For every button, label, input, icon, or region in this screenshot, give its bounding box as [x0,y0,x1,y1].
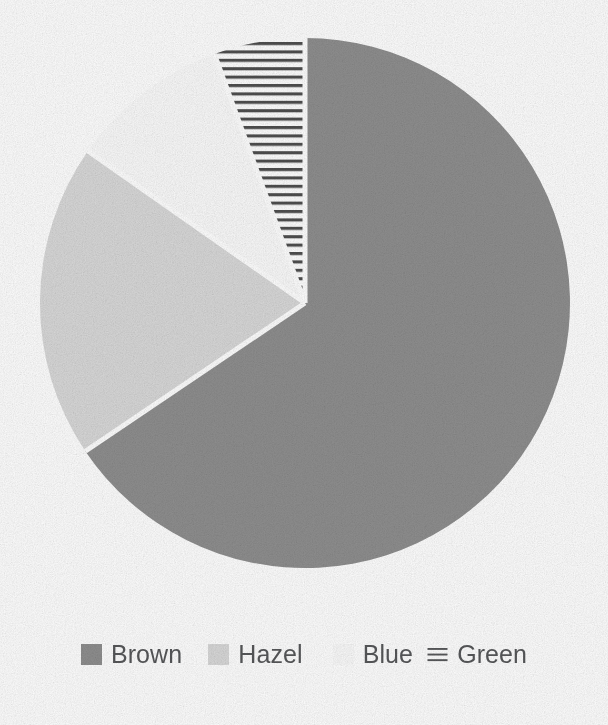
legend-swatch-green [427,644,448,665]
edge-softening [40,38,570,568]
pie-plot-area [0,0,608,600]
chart-legend: Brown Hazel Blue Green [0,628,608,680]
legend-label-brown: Brown [111,642,182,667]
pie-chart-figure: Brown Hazel Blue Green [0,0,608,725]
pie-svg [0,0,608,600]
legend-swatch-hazel [208,644,229,665]
legend-label-blue: Blue [363,642,413,667]
legend-item-brown[interactable]: Brown [81,642,182,667]
legend-swatch-blue [333,644,354,665]
legend-label-green: Green [457,642,527,667]
legend-item-blue[interactable]: Blue [333,642,413,667]
legend-label-hazel: Hazel [238,642,302,667]
legend-item-hazel[interactable]: Hazel [208,642,302,667]
legend-swatch-brown [81,644,102,665]
legend-item-green[interactable]: Green [427,642,527,667]
